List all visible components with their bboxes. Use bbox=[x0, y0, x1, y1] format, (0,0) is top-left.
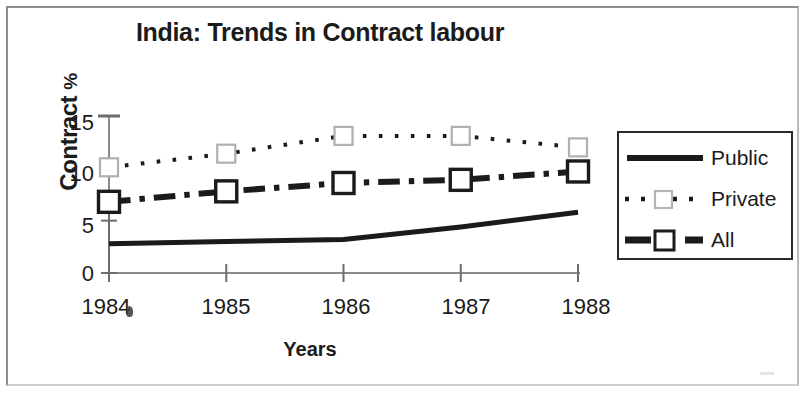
figure-screenshot: India: Trends in Contract labour Contrac… bbox=[0, 0, 807, 402]
legend-item-all[interactable]: All bbox=[619, 218, 791, 261]
marker-all-1986 bbox=[333, 172, 354, 193]
marker-all-1988 bbox=[568, 161, 589, 182]
marker-private-1988 bbox=[569, 138, 587, 156]
marker-all-1987 bbox=[450, 169, 471, 190]
marker-all-1984 bbox=[99, 191, 120, 212]
legend-swatch-private bbox=[619, 185, 711, 213]
marker-private-1987 bbox=[452, 127, 470, 145]
legend-label-private: Private bbox=[711, 187, 776, 211]
legend: Public Private All bbox=[617, 131, 793, 260]
marker-private-1984 bbox=[100, 158, 118, 176]
legend-label-all: All bbox=[711, 228, 734, 252]
legend-item-public[interactable]: Public bbox=[619, 136, 791, 179]
marker-private-1986 bbox=[335, 127, 353, 145]
legend-swatch-all bbox=[619, 226, 711, 254]
scan-artifact-speck bbox=[760, 372, 774, 375]
series-line-public bbox=[109, 212, 578, 243]
legend-item-private[interactable]: Private bbox=[619, 177, 791, 220]
legend-swatch-public bbox=[619, 144, 711, 172]
legend-label-public: Public bbox=[711, 146, 768, 170]
marker-private-1985 bbox=[217, 145, 235, 163]
scan-artifact-smudge bbox=[126, 306, 133, 317]
marker-all-1985 bbox=[216, 181, 237, 202]
